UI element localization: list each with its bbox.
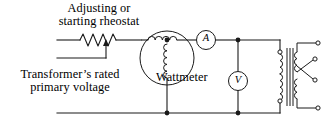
rheostat-zigzag	[80, 34, 116, 46]
ammeter-letter: A	[199, 33, 213, 44]
transformer-primary-coil-upper	[280, 54, 283, 74]
wattmeter-label: Wattmeter	[156, 71, 208, 84]
transformer-terminals	[278, 41, 320, 110]
transformer-secondary-coil-upper	[294, 52, 297, 72]
supply-label-line2: primary voltage	[2, 81, 138, 94]
terminal-secondary-1	[316, 41, 320, 45]
junction-dot-wattmeter-bottom	[165, 111, 170, 116]
adjusting-rheostat	[80, 34, 141, 46]
terminal-primary-bottom	[278, 99, 282, 103]
rheostat-label: Adjusting or starting rheostat	[44, 2, 154, 29]
transformer-secondary-coil-lower	[294, 79, 297, 99]
rheostat-label-line1: Adjusting or	[44, 2, 154, 15]
transformer-primary-coil-lower	[280, 74, 283, 100]
supply-label: Transformer’s rated primary voltage	[2, 68, 138, 95]
rheostat-label-line2: starting rheostat	[44, 15, 154, 28]
circuit-diagram: Adjusting or starting rheostat Transform…	[0, 0, 327, 128]
terminal-secondary-2	[313, 57, 317, 61]
supply-label-line1: Transformer’s rated	[2, 68, 138, 81]
junction-dot-voltmeter-bottom	[236, 111, 241, 116]
voltmeter-letter: V	[231, 75, 245, 86]
wire-secondary-cross-a	[297, 60, 313, 72]
junction-dot-wattmeter-top	[165, 38, 170, 43]
terminal-secondary-4	[316, 106, 320, 110]
transformer-symbol	[280, 43, 316, 108]
terminal-secondary-3	[313, 78, 317, 82]
terminal-primary-top	[278, 50, 282, 54]
wire-secondary-cross-b	[297, 66, 313, 79]
rheostat-wiper-arrow-icon	[103, 39, 109, 46]
